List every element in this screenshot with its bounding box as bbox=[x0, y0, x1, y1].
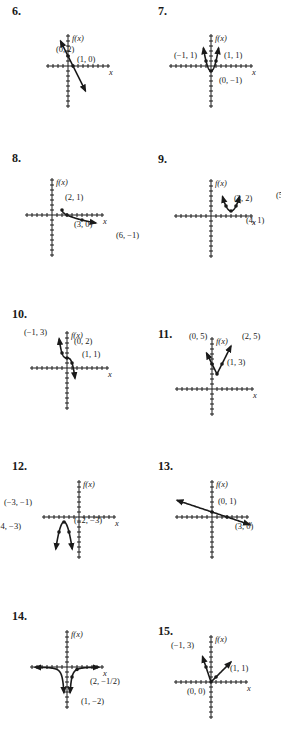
point-marker bbox=[71, 64, 75, 68]
axes bbox=[174, 179, 253, 258]
point-label: (0, 2) bbox=[74, 336, 93, 346]
point-label: (1, 1) bbox=[230, 663, 249, 673]
graph-problem-11: 11.f(x)x(0, 5)(2, 5)(1, 3) bbox=[158, 327, 261, 416]
point-label: (4, 1) bbox=[246, 215, 265, 225]
point-label: (1, 3) bbox=[227, 357, 246, 367]
point-label: (−1, 1) bbox=[174, 50, 197, 60]
graph-problem-8: 8.f(x)x(2, 1)(3, 0)(6, −1) bbox=[12, 151, 139, 257]
point-marker bbox=[220, 362, 224, 366]
point-marker bbox=[225, 515, 229, 519]
point-marker bbox=[67, 530, 71, 534]
point-marker bbox=[75, 668, 79, 672]
problem-number: 7. bbox=[158, 4, 167, 18]
problem-number: 8. bbox=[12, 151, 21, 165]
point-label: (−1, 3) bbox=[24, 327, 47, 337]
point-marker bbox=[65, 213, 69, 217]
point-label: (−2, −3) bbox=[74, 515, 102, 525]
point-label: (−4, −3) bbox=[0, 521, 21, 531]
y-axis-label: f(x) bbox=[72, 33, 84, 43]
point-marker bbox=[214, 59, 218, 63]
point-label: (1, 1) bbox=[82, 349, 101, 359]
point-label: (3, 0) bbox=[235, 521, 254, 531]
point-label: (2, 5) bbox=[242, 331, 261, 341]
y-axis-label: f(x) bbox=[71, 629, 83, 639]
point-marker bbox=[62, 520, 66, 524]
graph-problem-9: 9.f(x)x(3, 2)(5, 2)(4, 1) bbox=[158, 152, 281, 258]
point-marker bbox=[209, 69, 213, 73]
x-axis-label: x bbox=[114, 518, 119, 528]
point-marker bbox=[209, 680, 213, 684]
problem-number: 14. bbox=[12, 609, 27, 623]
point-label: (1, 0) bbox=[77, 54, 96, 64]
axes bbox=[175, 337, 254, 416]
point-marker bbox=[234, 204, 238, 208]
problem-number: 9. bbox=[158, 152, 167, 166]
point-marker bbox=[70, 675, 74, 679]
function-curve bbox=[35, 667, 64, 693]
graph-problem-12: 12.f(x)x(−3, −1)(−4, −3)(−2, −3) bbox=[0, 459, 119, 559]
point-label: (1, 1) bbox=[224, 50, 243, 60]
axes bbox=[25, 178, 104, 257]
point-marker bbox=[215, 372, 219, 376]
point-marker bbox=[210, 362, 214, 366]
graph-problem-10: 10.f(x)x(−1, 3)(0, 2)(1, 1) bbox=[12, 307, 112, 410]
point-label: (−3, −1) bbox=[4, 497, 32, 507]
point-label: (2, −1/2) bbox=[90, 676, 120, 686]
problem-number: 13. bbox=[158, 459, 173, 473]
axes bbox=[175, 480, 249, 559]
x-axis-label: x bbox=[251, 67, 256, 77]
x-axis-label: x bbox=[102, 216, 107, 226]
y-axis-label: f(x) bbox=[215, 634, 227, 644]
point-marker bbox=[210, 510, 214, 514]
point-marker bbox=[66, 54, 70, 58]
problem-number: 11. bbox=[158, 327, 172, 341]
problem-number: 6. bbox=[12, 4, 21, 18]
point-label: (0, 2) bbox=[56, 44, 75, 54]
point-label: (3, 0) bbox=[74, 219, 93, 229]
point-label: (1, −2) bbox=[81, 696, 104, 706]
point-marker bbox=[70, 361, 74, 365]
point-label: (0, 0) bbox=[187, 686, 206, 696]
axes bbox=[30, 331, 109, 410]
point-marker bbox=[224, 204, 228, 208]
point-label: (3, 2) bbox=[234, 193, 253, 203]
x-axis-label: x bbox=[107, 369, 112, 379]
graph-problem-15: 15.f(x)x(−1, 3)(1, 1)(0, 0) bbox=[158, 624, 251, 719]
problem-number: 15. bbox=[158, 624, 173, 638]
point-label: (0, 5) bbox=[189, 331, 208, 341]
y-axis-label: f(x) bbox=[216, 479, 228, 489]
point-label: (0, −1) bbox=[219, 75, 242, 85]
x-axis-label: x bbox=[252, 390, 257, 400]
point-label: (0, 1) bbox=[218, 496, 237, 506]
point-marker bbox=[204, 59, 208, 63]
graph-problem-14: 14.f(x)x(2, −1/2)(1, −2) bbox=[12, 609, 120, 709]
point-marker bbox=[214, 675, 218, 679]
graphs-canvas: 6.f(x)x(0, 2)(1, 0)7.f(x)x(−1, 1)(1, 1)(… bbox=[0, 0, 281, 744]
problem-number: 10. bbox=[12, 307, 27, 321]
x-axis-label: x bbox=[108, 67, 113, 77]
y-axis-label: f(x) bbox=[56, 177, 68, 187]
point-marker bbox=[204, 665, 208, 669]
graph-problem-13: 13.f(x)x(0, 1)(3, 0) bbox=[158, 459, 254, 559]
point-marker bbox=[60, 351, 64, 355]
graph-problem-7: 7.f(x)x(−1, 1)(1, 1)(0, −1) bbox=[158, 4, 256, 108]
y-axis-label: f(x) bbox=[83, 479, 95, 489]
function-curve bbox=[56, 522, 73, 549]
point-marker bbox=[60, 208, 64, 212]
y-axis-label: f(x) bbox=[215, 33, 227, 43]
problem-number: 12. bbox=[12, 459, 27, 473]
point-label: (2, 1) bbox=[65, 192, 84, 202]
x-axis-label: x bbox=[246, 683, 251, 693]
point-label: (6, −1) bbox=[116, 230, 139, 240]
point-label: (5, 2) bbox=[276, 190, 281, 200]
point-marker bbox=[57, 530, 61, 534]
graph-problem-6: 6.f(x)x(0, 2)(1, 0) bbox=[12, 4, 113, 108]
y-axis-label: f(x) bbox=[216, 336, 228, 346]
y-axis-label: f(x) bbox=[215, 178, 227, 188]
point-label: (−1, 3) bbox=[171, 640, 194, 650]
point-marker bbox=[229, 209, 233, 213]
point-marker bbox=[65, 356, 69, 360]
